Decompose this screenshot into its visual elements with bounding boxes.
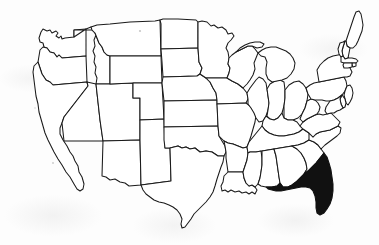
scan-speck [52, 162, 54, 164]
state-az[interactable]: Arizona [102, 140, 141, 186]
states-layer: WashingtonOregonCaliforniaIdahoNevadaUta… [33, 11, 363, 228]
state-ma[interactable]: Massachusetts [341, 56, 358, 63]
state-me[interactable]: Maine [346, 11, 363, 48]
us-states-map: Map of the United States WashingtonOrego… [0, 0, 379, 245]
state-ct[interactable]: Connecticut [343, 63, 352, 68]
state-wy[interactable]: Wyoming [110, 56, 162, 84]
state-mn[interactable]: Minnesota [198, 21, 234, 78]
scan-speck [34, 107, 35, 108]
scan-speck [139, 30, 141, 32]
us-map-figure: Map of the United States WashingtonOrego… [0, 0, 379, 245]
state-sd[interactable]: South Dakota [161, 48, 202, 77]
state-ri[interactable]: Rhode Island [352, 63, 356, 67]
state-nd[interactable]: North Dakota [160, 19, 198, 49]
state-ks[interactable]: Kansas [164, 100, 218, 127]
